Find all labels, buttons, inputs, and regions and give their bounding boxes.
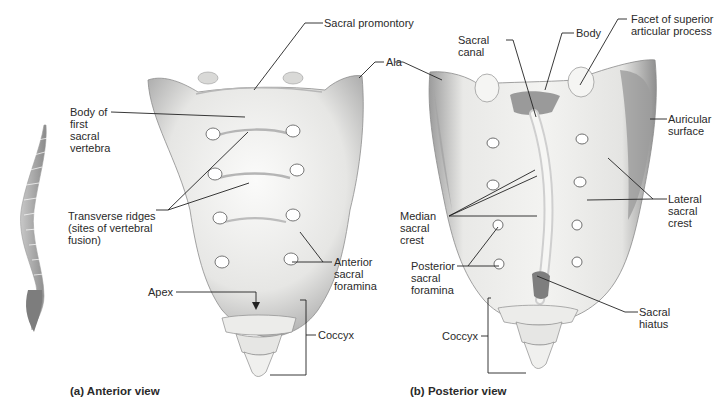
figure-artwork [0, 0, 721, 414]
label-coccyx-posterior: Coccyx [442, 330, 478, 342]
label-lateral-sacral-crest: Lateral sacral crest [668, 193, 702, 229]
caption-anterior-view: (a) Anterior view [70, 385, 160, 397]
label-transverse-ridges: Transverse ridges (sites of vertebral fu… [68, 210, 156, 246]
posterior-sacrum-illustration [429, 60, 656, 369]
caption-posterior-view: (b) Posterior view [410, 385, 507, 397]
label-body-of-first-sacral-vertebra: Body of first sacral vertebra [70, 106, 110, 154]
label-median-sacral-crest: Median sacral crest [400, 210, 436, 246]
vertebral-column-icon [21, 125, 48, 332]
label-sacral-promontory: Sacral promontory [324, 17, 414, 29]
label-ala: Ala [386, 56, 402, 68]
label-coccyx-anterior: Coccyx [318, 329, 354, 341]
label-anterior-sacral-foramina: Anterior sacral foramina [334, 256, 377, 292]
label-body: Body [576, 27, 601, 39]
label-sacral-hiatus: Sacral hiatus [639, 306, 670, 330]
label-apex: Apex [148, 286, 173, 298]
sacrum-coccyx-figure: Sacral promontory Ala Body of first sacr… [0, 0, 721, 414]
label-sacral-canal: Sacral canal [458, 34, 489, 58]
label-auricular-surface: Auricular surface [668, 113, 711, 137]
label-facet-superior-articular-process: Facet of superior articular process [631, 13, 714, 37]
label-posterior-sacral-foramina: Posterior sacral foramina [411, 260, 455, 296]
